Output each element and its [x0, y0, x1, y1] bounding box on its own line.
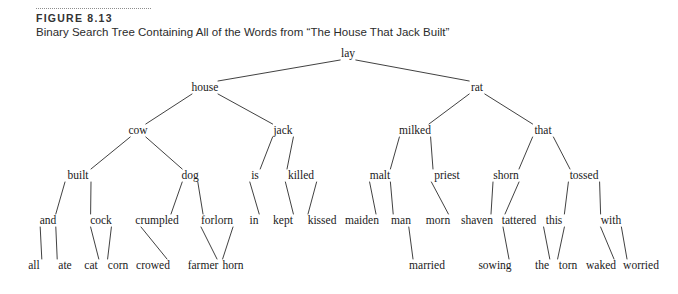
tree-node-tattered: tattered: [502, 215, 536, 227]
tree-node-maiden: maiden: [345, 215, 379, 227]
tree-node-married: married: [409, 260, 445, 272]
tree-node-with: with: [601, 215, 621, 227]
tree-node-all: all: [28, 260, 40, 272]
tree-edge-killed-to-kissed: [308, 182, 317, 214]
tree-node-dog: dog: [181, 170, 198, 182]
tree-edge-milked-to-priest: [431, 137, 433, 169]
tree-node-worried: worried: [623, 260, 659, 272]
tree-edge-forlorn-to-horn: [223, 227, 233, 259]
tree-edge-milked-to-malt: [390, 137, 399, 169]
tree-node-tossed: tossed: [570, 170, 599, 182]
tree-node-cow: cow: [128, 125, 147, 137]
tree-edge-malt-to-maiden: [370, 182, 376, 214]
tree-edge-jack-to-is: [260, 137, 272, 169]
tree-edge-tossed-to-with: [600, 182, 601, 214]
tree-edge-rat-to-milked: [429, 94, 469, 124]
tree-node-killed: killed: [288, 170, 314, 182]
tree-edge-with-to-waked: [601, 227, 614, 259]
tree-edge-shorn-to-shaven: [491, 182, 493, 214]
tree-node-forlorn: forlorn: [201, 215, 233, 227]
tree-node-that: that: [534, 125, 551, 137]
tree-node-built: built: [67, 170, 88, 182]
tree-node-and: and: [40, 215, 57, 227]
tree-edge-and-to-all: [40, 227, 42, 259]
binary-search-tree-edges: [0, 0, 678, 294]
tree-node-is: is: [251, 170, 259, 182]
tree-edge-this-to-torn: [558, 227, 565, 259]
tree-edge-dog-to-forlorn: [198, 182, 203, 214]
tree-node-crumpled: crumpled: [135, 215, 178, 227]
tree-edge-tattered-to-sowing: [503, 227, 509, 259]
tree-edge-jack-to-killed: [287, 137, 293, 169]
tree-edge-is-to-in: [250, 182, 259, 214]
tree-node-the: the: [535, 260, 549, 272]
tree-node-house: house: [192, 82, 219, 94]
tree-edge-shorn-to-tattered: [505, 182, 519, 214]
tree-edge-rat-to-that: [485, 94, 533, 124]
tree-edge-lay-to-rat: [356, 60, 469, 81]
tree-edge-cow-to-dog: [146, 137, 182, 169]
tree-edge-cock-to-cat: [91, 227, 99, 259]
tree-edge-with-to-worried: [621, 227, 627, 259]
tree-node-malt: malt: [370, 170, 390, 182]
tree-edge-built-to-and: [56, 182, 65, 214]
tree-edge-house-to-cow: [146, 94, 192, 124]
tree-edge-that-to-shorn: [519, 137, 533, 169]
tree-edge-man-to-married: [409, 227, 413, 259]
tree-node-shorn: shorn: [493, 170, 519, 182]
tree-node-lay: lay: [341, 48, 355, 60]
tree-edge-forlorn-to-farmer: [201, 227, 217, 259]
tree-edge-malt-to-man: [390, 182, 393, 214]
tree-edge-dog-to-crumpled: [171, 182, 182, 214]
tree-node-torn: torn: [559, 260, 578, 272]
tree-edge-this-to-the: [544, 227, 550, 259]
tree-node-in: in: [250, 215, 259, 227]
tree-node-sowing: sowing: [478, 260, 511, 272]
tree-node-waked: waked: [586, 260, 616, 272]
edge-layer: [40, 60, 627, 259]
tree-node-kissed: kissed: [308, 215, 337, 227]
tree-node-priest: priest: [434, 170, 460, 182]
tree-node-man: man: [391, 215, 411, 227]
tree-node-crowed: crowed: [136, 260, 170, 272]
tree-edge-crumpled-to-crowed: [141, 227, 167, 259]
tree-edge-tossed-to-this: [564, 182, 568, 214]
tree-edge-killed-to-kept: [285, 182, 293, 214]
tree-node-cock: cock: [90, 215, 112, 227]
tree-node-kept: kept: [273, 215, 293, 227]
tree-edge-that-to-tossed: [553, 137, 570, 169]
tree-edge-cow-to-built: [91, 137, 130, 169]
tree-node-cat: cat: [84, 260, 97, 272]
tree-node-morn: morn: [426, 215, 450, 227]
tree-edge-priest-to-morn: [431, 182, 448, 214]
tree-edge-cock-to-corn: [108, 227, 112, 259]
tree-edge-lay-to-house: [218, 60, 340, 81]
tree-node-jack: jack: [273, 125, 292, 137]
tree-edge-house-to-jack: [218, 94, 273, 124]
tree-node-ate: ate: [58, 260, 71, 272]
tree-node-this: this: [546, 215, 563, 227]
figure-container: FIGURE 8.13 Binary Search Tree Containin…: [0, 0, 678, 294]
tree-node-milked: milked: [399, 125, 431, 137]
tree-node-shaven: shaven: [461, 215, 493, 227]
tree-node-corn: corn: [108, 260, 128, 272]
tree-node-rat: rat: [471, 82, 483, 94]
tree-node-horn: horn: [222, 260, 243, 272]
tree-node-farmer: farmer: [188, 260, 219, 272]
tree-edge-and-to-ate: [56, 227, 57, 259]
